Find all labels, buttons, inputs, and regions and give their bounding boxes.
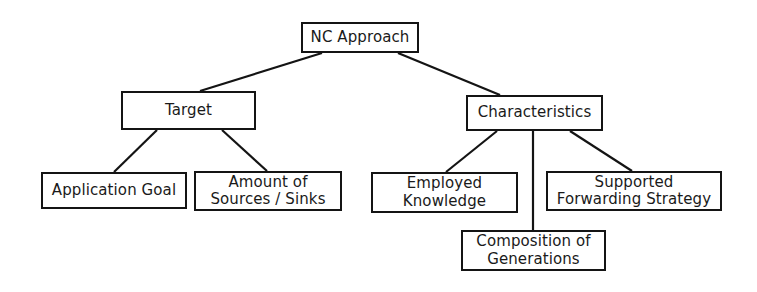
node-nc-approach-label: NC Approach (307, 29, 414, 46)
node-characteristics-label: Characteristics (474, 104, 596, 121)
edge-root-to-characteristics (398, 53, 500, 95)
node-composition-of-generations-label: Composition of Generations (472, 233, 594, 267)
edge-root-to-target (200, 53, 322, 91)
node-characteristics[interactable]: Characteristics (466, 95, 603, 131)
node-target[interactable]: Target (121, 91, 256, 130)
edge-characteristics-to-employed-knowledge (446, 131, 497, 172)
node-employed-knowledge-label: Employed Knowledge (399, 175, 490, 209)
edge-characteristics-to-supported-forwarding-strategy (570, 131, 632, 171)
node-application-goal[interactable]: Application Goal (41, 172, 187, 209)
node-amount-of-sources-sinks[interactable]: Amount of Sources / Sinks (194, 171, 342, 211)
node-application-goal-label: Application Goal (48, 182, 180, 199)
node-composition-of-generations[interactable]: Composition of Generations (461, 230, 606, 271)
node-employed-knowledge[interactable]: Employed Knowledge (371, 172, 518, 213)
edge-target-to-amount-sources-sinks (222, 130, 267, 171)
diagram-canvas: NC Approach Target Characteristics Appli… (0, 0, 757, 292)
node-supported-forwarding-strategy-label: Supported Forwarding Strategy (553, 174, 715, 208)
edge-target-to-application-goal (114, 130, 157, 172)
node-target-label: Target (161, 102, 216, 119)
node-amount-of-sources-sinks-label: Amount of Sources / Sinks (206, 174, 329, 208)
node-nc-approach[interactable]: NC Approach (301, 22, 419, 53)
node-supported-forwarding-strategy[interactable]: Supported Forwarding Strategy (546, 171, 722, 211)
